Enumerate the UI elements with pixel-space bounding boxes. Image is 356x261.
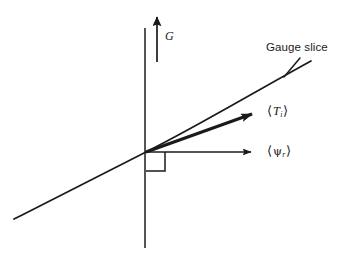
diagram-svg: [0, 0, 356, 261]
tangent-symbol: T: [273, 104, 280, 118]
g-axis-label: G: [165, 30, 174, 42]
figure-canvas: Gauge slice G ⟨Ti⟩ ⟨ψr⟩: [0, 0, 356, 261]
tangent-vector-label: ⟨Ti⟩: [266, 103, 289, 119]
gauge-slice-label: Gauge slice: [266, 42, 328, 54]
psi-bracket-close: ⟩: [285, 144, 292, 158]
tangent-bracket-close: ⟩: [282, 104, 289, 118]
gauge-slice-curve: [14, 61, 311, 219]
psi-symbol: ψ: [273, 144, 282, 158]
right-angle-marker: [146, 152, 165, 171]
tangent-vector-arrow: [146, 114, 252, 152]
psi-vector-label: ⟨ψr⟩: [266, 143, 292, 159]
psi-bracket-open: ⟨: [266, 144, 273, 158]
tangent-bracket-open: ⟨: [266, 104, 273, 118]
